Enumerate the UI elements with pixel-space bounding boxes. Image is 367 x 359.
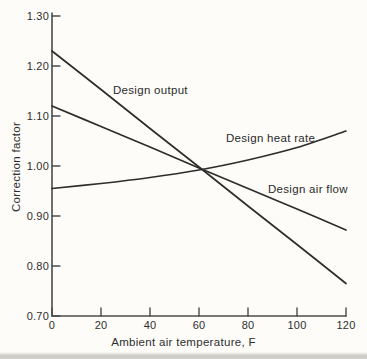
series-label-design-output: Design output (113, 84, 188, 96)
x-tick-label: 80 (242, 319, 255, 332)
x-tick-label: 120 (337, 319, 356, 332)
y-tick-label: 1.30 (17, 10, 49, 23)
x-tick-label: 100 (288, 319, 307, 332)
y-tick-label: 0.80 (17, 260, 49, 273)
series-line-design-air-flow (52, 106, 346, 230)
chart-figure: 0.700.800.901.001.101.201.30020406080100… (0, 0, 367, 359)
x-tick-label: 20 (95, 319, 108, 332)
scanned-page-edge-shading (0, 352, 367, 359)
y-axis-title: Correction factor (10, 112, 22, 222)
chart-canvas (0, 0, 367, 359)
series-label-design-air-flow: Design air flow (268, 183, 348, 195)
x-tick-label: 0 (49, 319, 55, 332)
x-tick-label: 40 (144, 319, 157, 332)
y-tick-label: 0.70 (17, 310, 49, 323)
x-axis-title: Ambient air temperature, F (0, 336, 367, 348)
axes (52, 13, 346, 316)
x-tick-label: 60 (193, 319, 206, 332)
series-label-design-heat-rate: Design heat rate (226, 132, 315, 144)
y-tick-label: 1.20 (17, 60, 49, 73)
